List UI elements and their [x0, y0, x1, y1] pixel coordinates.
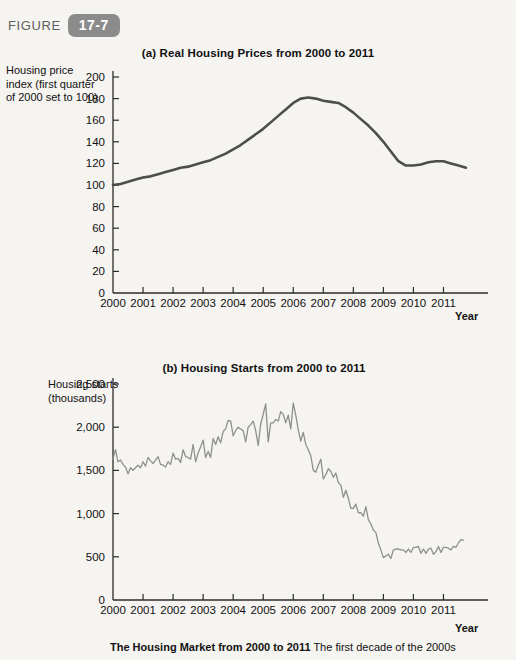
- x-tick-label: 2006: [280, 604, 306, 616]
- data-series-line: [113, 98, 466, 185]
- y-tick-label: 60: [92, 222, 105, 234]
- x-tick-label: 2006: [280, 297, 306, 309]
- x-tick-label: 2007: [311, 297, 337, 309]
- x-tick-label: 2000: [100, 297, 126, 309]
- x-tick-label: 2005: [250, 604, 276, 616]
- y-tick-label: 140: [86, 136, 105, 148]
- x-tick-label: 2008: [341, 297, 367, 309]
- x-tick-label: 2004: [220, 297, 246, 309]
- y-tick-label: 160: [86, 114, 105, 126]
- y-tick-label: 200: [86, 71, 105, 83]
- real-housing-prices-chart: 0204060801001201401601802002000200120022…: [0, 60, 516, 310]
- y-tick-label: 80: [92, 201, 105, 213]
- x-tick-label: 2011: [431, 604, 456, 616]
- panel-b-plot-area: 05001,0001,5002,0002,5002000200120022003…: [0, 372, 516, 630]
- x-tick-label: 2011: [431, 297, 456, 309]
- y-tick-label: 2,000: [76, 421, 105, 433]
- y-tick-label: 500: [86, 551, 105, 563]
- y-tick-label: 20: [92, 265, 105, 277]
- x-tick-label: 2000: [100, 604, 126, 616]
- y-tick-label: 1,500: [76, 464, 105, 476]
- y-tick-label: 2,500: [76, 378, 105, 390]
- figure-caption: The Housing Market from 2000 to 2011 The…: [110, 640, 510, 654]
- x-tick-label: 2004: [220, 604, 246, 616]
- x-tick-label: 2008: [341, 604, 367, 616]
- caption-title: The Housing Market from 2000 to 2011: [110, 641, 311, 653]
- housing-starts-chart: 05001,0001,5002,0002,5002000200120022003…: [0, 372, 516, 630]
- caption-body: The first decade of the 2000s: [313, 641, 455, 653]
- panel-a-title: (a) Real Housing Prices from 2000 to 201…: [0, 47, 516, 59]
- figure-header: FIGURE 17-7: [8, 14, 120, 37]
- x-tick-label: 2005: [250, 297, 276, 309]
- x-tick-label: 2003: [190, 604, 216, 616]
- figure-label: FIGURE: [8, 18, 61, 33]
- y-tick-label: 180: [86, 93, 105, 105]
- figure-number-badge: 17-7: [68, 14, 120, 37]
- x-tick-label: 2010: [401, 604, 427, 616]
- x-tick-label: 2009: [371, 604, 397, 616]
- data-series-line: [113, 403, 464, 559]
- x-tick-label: 2003: [190, 297, 216, 309]
- panel-a-xlabel: Year: [455, 310, 478, 322]
- x-tick-label: 2009: [371, 297, 397, 309]
- x-tick-label: 2002: [160, 297, 186, 309]
- x-tick-label: 2007: [311, 604, 337, 616]
- x-tick-label: 2010: [401, 297, 427, 309]
- y-tick-label: 100: [86, 179, 105, 191]
- y-tick-label: 120: [86, 157, 105, 169]
- x-tick-label: 2001: [130, 604, 156, 616]
- panel-a-plot-area: 0204060801001201401601802002000200120022…: [0, 60, 516, 310]
- x-tick-label: 2001: [130, 297, 156, 309]
- y-tick-label: 40: [92, 244, 105, 256]
- y-tick-label: 1,000: [76, 508, 105, 520]
- x-tick-label: 2002: [160, 604, 186, 616]
- figure-page: FIGURE 17-7 (a) Real Housing Prices from…: [0, 0, 516, 660]
